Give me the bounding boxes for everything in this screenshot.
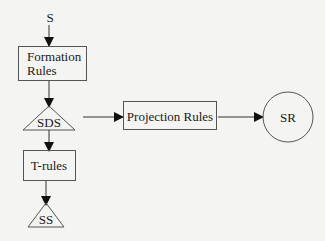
t-rules-label: T-rules: [31, 158, 67, 173]
projection-rules-label: Projection Rules: [127, 109, 213, 124]
s-label: S: [46, 10, 53, 25]
formation-rules-label-line2: Rules: [27, 63, 57, 78]
sr-label: SR: [280, 110, 296, 125]
diagram-canvas: S Formation Rules SDS Projection Rules S…: [0, 0, 325, 241]
ss-label: SS: [39, 212, 53, 227]
formation-rules-label-line1: Formation: [27, 49, 81, 64]
sds-label: SDS: [37, 115, 61, 130]
